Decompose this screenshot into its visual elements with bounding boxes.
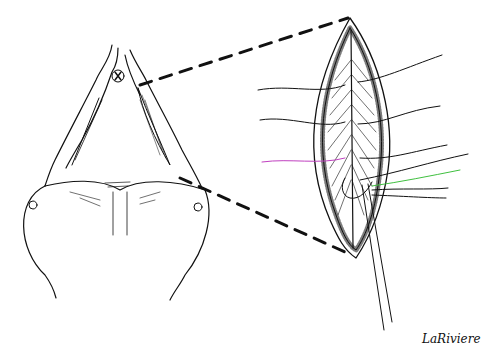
surgical-illustration [0,0,489,354]
left-anatomy [24,45,209,300]
magnified-wound [258,18,468,330]
projection-lines [140,18,348,252]
artist-signature: LaRiviere [422,332,481,346]
